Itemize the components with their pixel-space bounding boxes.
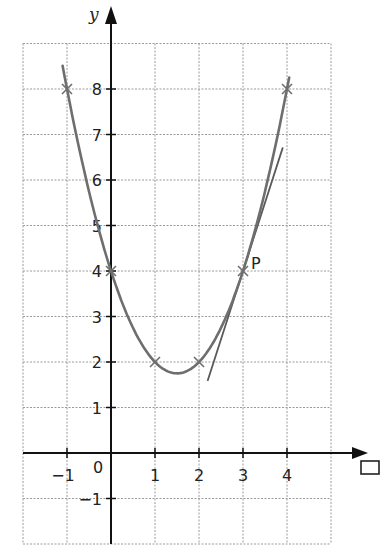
x-tick-label: 2 [194, 466, 204, 485]
y-axis-label: y [88, 4, 99, 24]
parabola-graph: −11234−112345678 y 0 P [0, 0, 388, 554]
y-tick-label: 1 [92, 399, 102, 418]
y-tick-label: 6 [92, 171, 102, 190]
x-tick-label: 3 [238, 466, 248, 485]
point-p-label: P [251, 254, 261, 273]
x-tick-label: 4 [282, 466, 292, 485]
origin-label: 0 [93, 458, 103, 477]
y-tick-label: 4 [92, 262, 102, 281]
y-tick-label: 3 [92, 308, 102, 327]
x-tick-label: 1 [150, 466, 160, 485]
y-axis-arrow-icon [105, 6, 117, 24]
y-tick-label: 8 [92, 80, 102, 99]
y-tick-label: 7 [92, 126, 102, 145]
axes [23, 6, 368, 544]
ticks [67, 89, 287, 499]
tick-labels: −11234−112345678 [51, 80, 292, 509]
x-tick-label: −1 [51, 466, 75, 485]
x-axis-arrow-icon [352, 447, 368, 459]
x-axis-label-box [361, 461, 379, 474]
y-tick-label: −1 [78, 490, 102, 509]
y-tick-label: 2 [92, 353, 102, 372]
parabola-curve [63, 66, 290, 374]
